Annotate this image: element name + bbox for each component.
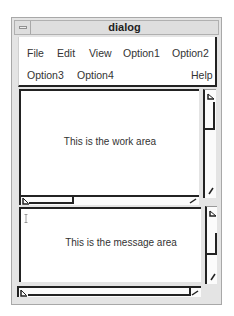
menu-option4[interactable]: Option4 (77, 69, 114, 81)
scroll-up-arrow-icon[interactable] (209, 210, 217, 218)
window-menu-button[interactable] (15, 21, 31, 34)
menu-option1[interactable]: Option1 (123, 47, 160, 59)
work-area-horizontal-scrollbar[interactable] (19, 195, 199, 205)
message-area-horizontal-thumb[interactable] (28, 288, 191, 296)
dialog-window: dialog File Edit View Option1 Option2 Op… (11, 17, 222, 305)
menu-edit[interactable]: Edit (57, 47, 75, 59)
scroll-up-arrow-icon[interactable] (207, 93, 215, 101)
menu-view[interactable]: View (89, 47, 112, 59)
work-area-vertical-thumb[interactable] (205, 102, 215, 130)
work-area-horizontal-thumb[interactable] (29, 197, 74, 204)
message-area-vertical-scrollbar[interactable] (205, 206, 217, 284)
menu-option2[interactable]: Option2 (172, 47, 209, 59)
window-title: dialog (31, 20, 218, 34)
menu-help[interactable]: Help (191, 69, 213, 81)
message-area[interactable]: This is the message area (19, 207, 201, 282)
scroll-right-arrow-icon[interactable] (189, 197, 197, 205)
title-bar[interactable]: dialog (14, 20, 219, 35)
work-area-text: This is the work area (21, 136, 199, 147)
message-area-horizontal-scrollbar[interactable] (17, 286, 201, 297)
window-menu-icon (19, 26, 27, 29)
text-cursor-icon (24, 214, 28, 223)
work-area[interactable]: This is the work area (19, 89, 199, 195)
scroll-down-arrow-icon[interactable] (209, 273, 217, 281)
message-area-text: This is the message area (41, 237, 201, 248)
menu-file[interactable]: File (27, 47, 44, 59)
message-area-vertical-thumb[interactable] (207, 233, 217, 255)
scroll-left-arrow-icon[interactable] (20, 289, 28, 297)
scroll-right-arrow-icon[interactable] (191, 289, 199, 297)
menu-bar: File Edit View Option1 Option2 Option3 O… (18, 37, 217, 87)
scroll-down-arrow-icon[interactable] (207, 187, 215, 195)
work-area-vertical-scrollbar[interactable] (203, 89, 216, 198)
menu-option3[interactable]: Option3 (27, 69, 64, 81)
